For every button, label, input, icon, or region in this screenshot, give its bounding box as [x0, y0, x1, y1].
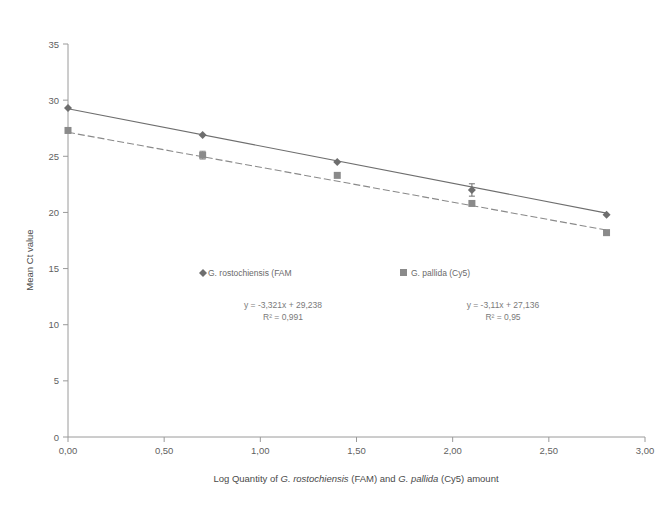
legend-item-label: G. pallida (Cy5)	[411, 268, 470, 278]
annotation-cy5-equation: y = -3,11x + 27,136 R² = 0,95	[467, 300, 540, 322]
y-tick-label: 15	[48, 263, 59, 274]
data-point-square	[65, 127, 72, 134]
cy5-equation-text: y = -3,11x + 27,136	[467, 300, 540, 310]
fam-r2-text: R² = 0,991	[263, 312, 303, 322]
data-point-square	[468, 200, 475, 207]
data-series-layer	[64, 104, 611, 236]
y-tick-label: 30	[48, 95, 59, 106]
y-axis-title: Mean Ct value	[24, 229, 35, 290]
x-tick-label: 0,00	[59, 445, 78, 456]
series-cy5	[65, 127, 611, 236]
data-point-square	[334, 172, 341, 179]
x-axis-title-text: Log Quantity of G. rostochiensis (FAM) a…	[213, 473, 499, 484]
x-tick-label: 3,00	[636, 445, 655, 456]
y-tick-label: 35	[48, 39, 59, 50]
x-tick-label: 0,50	[155, 445, 174, 456]
x-tick-label: 1,50	[347, 445, 366, 456]
data-point-diamond	[64, 104, 72, 112]
square-marker-icon	[400, 269, 407, 276]
diamond-marker-icon	[199, 269, 207, 277]
y-tick-label: 5	[54, 375, 59, 386]
x-tick-label: 2,00	[443, 445, 462, 456]
y-tick-label: 0	[54, 432, 59, 443]
chart-legend: G. rostochiensis (FAM G. pallida (Cy5)	[199, 268, 470, 278]
legend-item-label: G. rostochiensis (FAM	[208, 268, 292, 278]
x-tick-label: 2,50	[540, 445, 559, 456]
annotation-fam-equation: y = -3,321x + 29,238 R² = 0,991	[244, 300, 322, 322]
y-axis-ticks: 05101520253035	[48, 39, 68, 443]
trendline	[68, 132, 607, 230]
legend-item-fam[interactable]: G. rostochiensis (FAM	[199, 268, 292, 278]
y-axis-title-text: Mean Ct value	[24, 229, 35, 290]
x-axis-title: Log Quantity of G. rostochiensis (FAM) a…	[213, 473, 499, 484]
data-point-diamond	[199, 131, 207, 139]
cy5-r2-text: R² = 0,95	[485, 312, 520, 322]
data-point-square	[603, 229, 610, 236]
y-tick-label: 20	[48, 207, 59, 218]
legend-item-cy5[interactable]: G. pallida (Cy5)	[400, 268, 470, 278]
chart-container: 05101520253035 0,000,501,001,502,002,503…	[0, 0, 672, 515]
y-tick-label: 25	[48, 151, 59, 162]
y-tick-label: 10	[48, 319, 59, 330]
data-point-diamond	[603, 211, 611, 219]
fam-equation-text: y = -3,321x + 29,238	[244, 300, 322, 310]
data-point-square	[199, 152, 206, 159]
x-axis-ticks: 0,000,501,001,502,002,503,00	[59, 437, 655, 456]
data-point-diamond	[333, 158, 341, 166]
chart-plot-svg: 05101520253035 0,000,501,001,502,002,503…	[0, 0, 672, 515]
series-fam	[64, 104, 611, 219]
x-tick-label: 1,00	[251, 445, 270, 456]
